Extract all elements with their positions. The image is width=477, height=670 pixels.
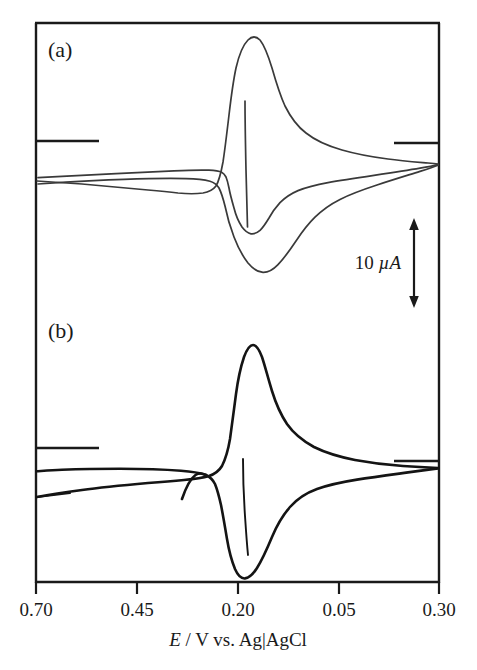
x-tick-label-2: 0.20: [221, 599, 254, 620]
trace-b-cathodic-tail: [37, 469, 206, 475]
panel-a-current-ticks: [36, 141, 440, 143]
plot-frame: [35, 23, 440, 583]
x-tick-label-3: 0.05: [322, 599, 355, 620]
trace-a-cathodic-inner: [38, 165, 438, 234]
trace-b-cathodic: [182, 468, 438, 578]
panel-label-a: (a): [48, 37, 72, 62]
cv-figure: 0.70 0.45 0.20 0.05 0.30 E / V vs. Ag|Ag…: [0, 0, 477, 670]
svg-text:E / V vs. Ag|AgCl: E / V vs. Ag|AgCl: [168, 629, 307, 650]
scale-bar: 10 µA: [355, 218, 419, 308]
x-tick-label-4: 0.30: [422, 599, 455, 620]
trace-b-switching-segment: [243, 459, 248, 555]
panel-a-voltammogram: [37, 37, 438, 272]
x-tick-label-0: 0.70: [19, 599, 52, 620]
scale-bar-arrow-up-icon: [409, 218, 419, 230]
x-tick-label-1: 0.45: [120, 599, 153, 620]
scale-bar-arrow-down-icon: [409, 296, 419, 308]
panel-b-current-ticks: [36, 448, 440, 461]
svg-text:10 µA: 10 µA: [355, 252, 402, 273]
trace-a-anodic: [37, 37, 438, 194]
x-axis-ticks: [36, 582, 439, 594]
x-axis-tick-labels: 0.70 0.45 0.20 0.05 0.30: [19, 599, 455, 620]
scale-bar-value: 10: [355, 252, 374, 273]
panel-b-voltammogram: [37, 345, 438, 578]
figure-canvas: 0.70 0.45 0.20 0.05 0.30 E / V vs. Ag|Ag…: [0, 0, 477, 670]
trace-a-switching-segment: [245, 101, 248, 227]
panel-label-b: (b): [48, 318, 74, 343]
x-axis-title: E / V vs. Ag|AgCl: [168, 629, 307, 650]
trace-b-anodic: [37, 345, 438, 497]
axis-title-symbol: E: [168, 629, 181, 650]
scale-bar-unit: µA: [378, 252, 401, 273]
axis-title-rest: / V vs. Ag|AgCl: [181, 629, 307, 650]
